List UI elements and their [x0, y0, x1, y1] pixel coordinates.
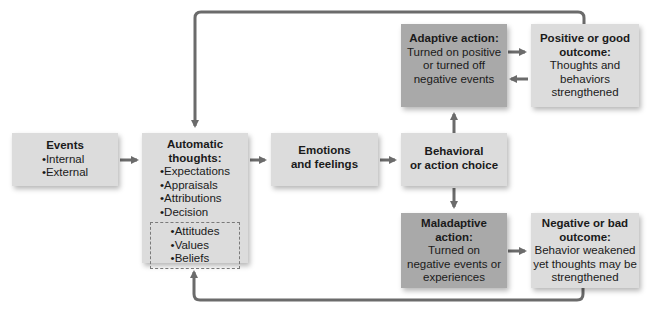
maladaptive-title: Maladaptive: [401, 217, 507, 231]
thought-item: Expectations: [160, 165, 230, 179]
negative-line: yet thoughts may be: [531, 258, 639, 272]
adaptive-line: or turned off: [401, 59, 507, 73]
negative-outcome-box: Negative or bad outcome: Behavior weaken…: [531, 213, 639, 288]
thought-item: Decision: [160, 206, 230, 220]
belief-item: Values: [171, 239, 220, 253]
negative-title: outcome:: [531, 231, 639, 245]
belief-item: Attitudes: [171, 225, 220, 239]
events-box: Events Internal External: [12, 133, 118, 186]
belief-item: Beliefs: [171, 252, 220, 266]
emotions-line: Emotions: [271, 144, 378, 158]
events-item: Internal: [42, 153, 88, 167]
positive-outcome-box: Positive or good outcome: Thoughts and b…: [531, 24, 639, 107]
maladaptive-action-box: Maladaptive action: Turned on negative e…: [401, 213, 507, 288]
positive-line: strengthened: [531, 86, 639, 100]
behavioral-line: Behavioral: [401, 145, 507, 159]
behavioral-box: Behavioral or action choice: [401, 133, 507, 186]
automatic-thoughts-title: thoughts:: [142, 152, 248, 166]
adaptive-line: Turned on positive: [401, 46, 507, 60]
adaptive-line: negative events: [401, 73, 507, 87]
positive-line: Thoughts and: [531, 59, 639, 73]
events-item: External: [42, 166, 88, 180]
negative-line: strengthened: [531, 271, 639, 285]
negative-line: Behavior weakened: [531, 244, 639, 258]
adaptive-action-box: Adaptive action: Turned on positive or t…: [401, 24, 507, 107]
positive-line: behaviors: [531, 73, 639, 87]
events-title: Events: [12, 139, 118, 153]
emotions-box: Emotions and feelings: [271, 133, 378, 186]
automatic-thoughts-title: Automatic: [142, 138, 248, 152]
adaptive-title: Adaptive action:: [401, 32, 507, 46]
maladaptive-line: Turned on: [401, 244, 507, 258]
negative-title: Negative or bad: [531, 217, 639, 231]
beliefs-dashed-group: Attitudes Values Beliefs: [150, 222, 240, 269]
thought-item: Appraisals: [160, 179, 230, 193]
maladaptive-title: action:: [401, 231, 507, 245]
maladaptive-line: negative events or: [401, 258, 507, 272]
emotions-line: and feelings: [271, 158, 378, 172]
thought-item: Attributions: [160, 192, 230, 206]
maladaptive-line: experiences: [401, 271, 507, 285]
automatic-thoughts-box: Automatic thoughts: Expectations Apprais…: [142, 133, 248, 263]
behavioral-line: or action choice: [401, 159, 507, 173]
positive-title: Positive or good: [531, 32, 639, 46]
positive-title: outcome:: [531, 46, 639, 60]
